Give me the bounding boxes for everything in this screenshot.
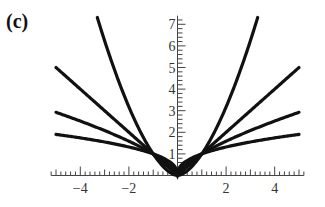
x-tick-label: 4 (271, 181, 278, 196)
y-tick-label: 1 (169, 147, 176, 162)
y-tick-label: 4 (169, 82, 176, 97)
y-tick-label: 5 (169, 61, 176, 76)
y-tick-label: 6 (169, 39, 176, 54)
x-tick-label: −4 (73, 181, 88, 196)
y-tick-label: 2 (169, 125, 176, 140)
x-tick-label: 2 (223, 181, 230, 196)
y-tick-label: 7 (169, 17, 176, 32)
y-tick-label: 3 (169, 104, 176, 119)
x-tick-label: −2 (121, 181, 136, 196)
power-curves-chart: −4−2241234567 (0, 0, 325, 207)
